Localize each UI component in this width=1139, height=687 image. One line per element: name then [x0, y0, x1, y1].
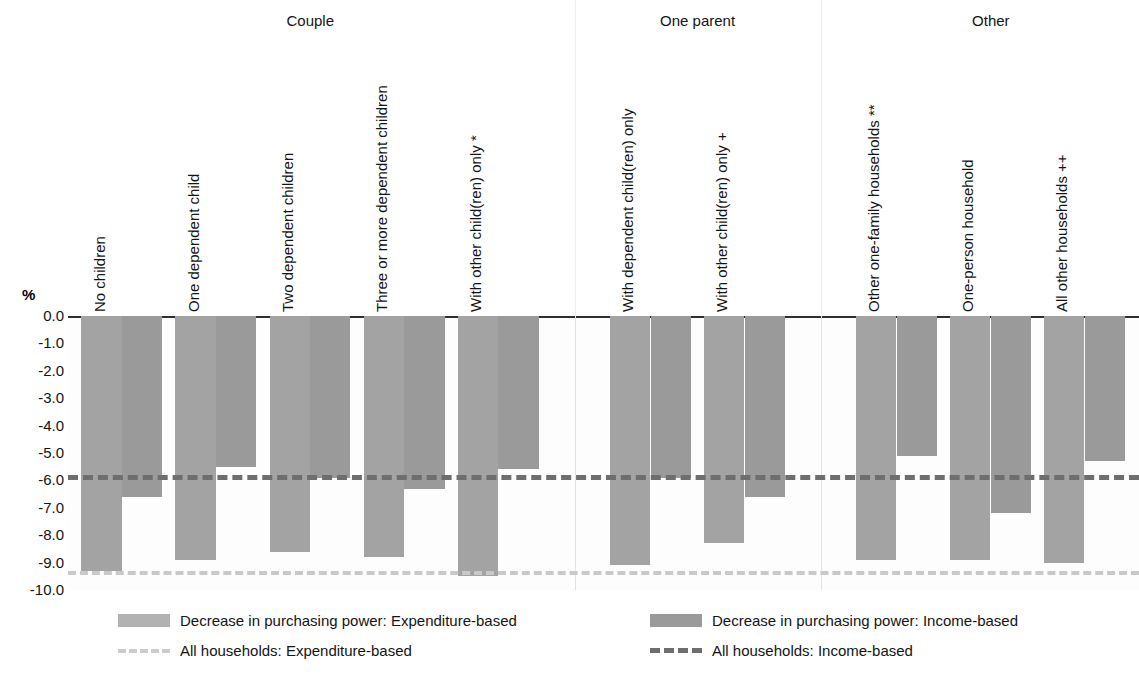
legend-swatch-expenditure-bar	[118, 614, 170, 627]
group-header-one-parent: One parent	[578, 12, 818, 29]
bar-income	[498, 316, 538, 469]
group-header-couple: Couple	[190, 12, 430, 29]
y-axis-tick-label: -10.0	[0, 582, 64, 597]
bar-expenditure	[704, 316, 744, 543]
bar-expenditure	[175, 316, 215, 560]
group-separator	[821, 316, 822, 590]
axis-unit-label: %	[22, 286, 35, 303]
y-axis-tick-label: -9.0	[0, 555, 64, 570]
legend-item-income-line: All households: Income-based	[650, 642, 913, 659]
category-label: No children	[92, 236, 107, 312]
group-header-other: Other	[871, 12, 1111, 29]
bar-expenditure	[81, 316, 121, 571]
group-separator	[575, 316, 576, 590]
category-label: With other child(ren) only *	[468, 135, 483, 312]
category-label: One dependent child	[186, 174, 201, 312]
bar-expenditure	[270, 316, 310, 552]
bar-income	[1085, 316, 1125, 461]
bar-expenditure	[1044, 316, 1084, 563]
legend-item-expenditure-line: All households: Expenditure-based	[118, 642, 412, 659]
y-axis-tick-label: -3.0	[0, 390, 64, 405]
bar-expenditure	[364, 316, 404, 557]
group-header-band: Couple One parent Other	[0, 0, 1139, 38]
legend-label-expenditure-line: All households: Expenditure-based	[180, 642, 412, 659]
category-label: Three or more dependent children	[374, 85, 389, 312]
category-label: Other one-family households **	[866, 104, 881, 312]
bar-expenditure	[950, 316, 990, 560]
category-label: One-person household	[960, 159, 975, 312]
y-axis-tick-label: -6.0	[0, 472, 64, 487]
bar-expenditure	[610, 316, 650, 565]
bar-income	[404, 316, 444, 489]
y-axis-tick-label: -5.0	[0, 445, 64, 460]
legend-item-income-bar: Decrease in purchasing power: Income-bas…	[650, 612, 1018, 629]
legend-label-income-bar: Decrease in purchasing power: Income-bas…	[712, 612, 1018, 629]
bar-income	[745, 316, 785, 497]
plot-area	[68, 316, 1139, 590]
legend-label-income-line: All households: Income-based	[712, 642, 913, 659]
bar-expenditure	[856, 316, 896, 560]
bar-income	[651, 316, 691, 478]
reference-line-expenditure	[68, 571, 1139, 575]
category-label: Two dependent children	[280, 153, 295, 312]
y-axis-tick-label: -4.0	[0, 418, 64, 433]
legend-swatch-expenditure-line	[118, 649, 170, 653]
legend-item-expenditure-bar: Decrease in purchasing power: Expenditur…	[118, 612, 517, 629]
bar-income	[310, 316, 350, 478]
group-separator-top	[575, 0, 576, 316]
bar-income	[991, 316, 1031, 513]
legend-swatch-income-line	[650, 648, 702, 653]
category-label: With other child(ren) only +	[714, 132, 729, 312]
bar-expenditure	[458, 316, 498, 576]
legend-label-expenditure-bar: Decrease in purchasing power: Expenditur…	[180, 612, 517, 629]
group-separator-top	[821, 0, 822, 316]
category-label: With dependent child(ren) only	[620, 109, 635, 312]
reference-line-income	[68, 475, 1139, 480]
y-axis-tick-label: -1.0	[0, 335, 64, 350]
y-axis-tick-label: -8.0	[0, 527, 64, 542]
bar-income	[216, 316, 256, 467]
y-axis-tick-label: -7.0	[0, 500, 64, 515]
category-label: All other households ++	[1054, 154, 1069, 312]
y-axis-tick-label: -2.0	[0, 363, 64, 378]
bar-income	[897, 316, 937, 456]
chart-figure: Couple One parent Other No childrenOne d…	[0, 0, 1139, 687]
legend-swatch-income-bar	[650, 614, 702, 627]
bar-income	[122, 316, 162, 497]
y-axis-tick-label: 0.0	[0, 308, 64, 323]
category-label-layer: No childrenOne dependent childTwo depend…	[0, 38, 1139, 314]
